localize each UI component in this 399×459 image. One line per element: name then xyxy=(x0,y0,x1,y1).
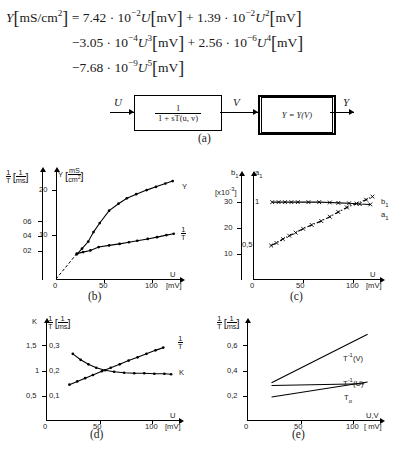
block2-label: Y = Y(V) xyxy=(282,110,312,120)
diagram-arrow-3 xyxy=(349,109,354,115)
chart-e-series-label-TU: T-1(U) xyxy=(343,377,363,388)
chart-d-series-label-K: K xyxy=(179,368,184,377)
chart-e-series-label-TV: T-1(V) xyxy=(343,352,363,363)
chart-c-series-label-a1: a1 xyxy=(381,210,389,221)
chart-c-series-label-b1: b1 xyxy=(381,197,389,208)
caption-d: (d) xyxy=(90,428,103,440)
signal-label-input: U xyxy=(114,96,122,108)
block1-denominator: 1 + sT(u, v) xyxy=(155,114,201,123)
equation-line-1: Y[mS/cm2] = 7.42 · 10−2U[mV] + 1.39 · 10… xyxy=(6,8,302,29)
transfer-function-block: 1 1 + sT(u, v) xyxy=(134,95,222,131)
chart-c-plot xyxy=(203,158,399,288)
signal-label-output: Y xyxy=(343,96,349,108)
chart-d: K 1T [1ms] 0,5 1 1,5 0,1 0,2 0,3 0 50 10… xyxy=(0,305,196,430)
figure-root: Y[mS/cm2] = 7.42 · 10−2U[mV] + 1.39 · 10… xyxy=(0,0,399,459)
signal-label-mid: V xyxy=(233,96,240,108)
caption-e: (e) xyxy=(292,428,305,440)
caption-c: (c) xyxy=(290,290,303,302)
caption-b: (b) xyxy=(88,290,101,302)
equation-line-3: −7.68 · 10−9U5[mV] xyxy=(72,58,184,79)
chart-e-series-label-T0: To xyxy=(344,393,352,404)
chart-c: b1 a1 [x10-3] 10 20 30 0,5 1 0 50 100 U … xyxy=(203,158,399,288)
chart-b-series-label-Y: Y xyxy=(182,182,187,191)
nonlinearity-block: Y = Y(V) xyxy=(258,95,336,135)
chart-b-series-label-invT: 1T xyxy=(181,226,186,242)
chart-b-plot xyxy=(0,158,196,288)
chart-d-series-label-invT: 1T xyxy=(178,335,183,351)
block-diagram: 1 1 + sT(u, v) Y = Y(V) U V Y xyxy=(106,92,336,132)
chart-b: 1T [1ms] Y [mScm2] 02 04 06 10 20 0 50 1… xyxy=(0,158,196,288)
chart-d-plot xyxy=(0,305,196,430)
chart-e-plot xyxy=(203,305,399,430)
equation-line-2: −3.05 · 10−4U3[mV] + 2.56 · 10−6U4[mV] xyxy=(72,33,303,54)
caption-a: (a) xyxy=(198,132,211,144)
chart-e: 1T [1ms] 0,2 0,4 0,6 0 50 100 U,V [ mV] … xyxy=(203,305,399,430)
